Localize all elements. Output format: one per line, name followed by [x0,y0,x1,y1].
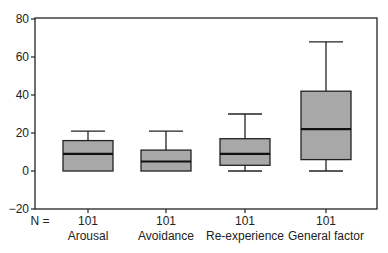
iqr-box [63,141,113,171]
y-tick-label: 0 [22,164,29,178]
box-avoidance [141,131,191,171]
box-re-experience [220,114,270,171]
y-axis: 806040200−20 [9,12,35,216]
box-arousal [63,131,113,171]
category-label: Avoidance [138,229,194,243]
y-tick-label: 40 [16,88,30,102]
n-value: 101 [235,214,255,228]
y-tick-label: −20 [9,202,30,216]
box-general-factor [301,42,351,171]
boxplot-chart: 806040200−20 N =101Arousal101Avoidance10… [0,0,388,253]
n-value: 101 [78,214,98,228]
n-value: 101 [316,214,336,228]
n-label: N = [30,214,49,228]
n-value: 101 [156,214,176,228]
y-tick-label: 80 [16,12,30,26]
category-label: General factor [288,229,364,243]
x-axis: N =101Arousal101Avoidance101Re-experienc… [30,209,364,243]
iqr-box [220,139,270,166]
y-tick-label: 60 [16,50,30,64]
category-label: Arousal [68,229,109,243]
iqr-box [301,91,351,159]
boxes [63,42,351,171]
category-label: Re-experience [206,229,284,243]
y-tick-label: 20 [16,126,30,140]
